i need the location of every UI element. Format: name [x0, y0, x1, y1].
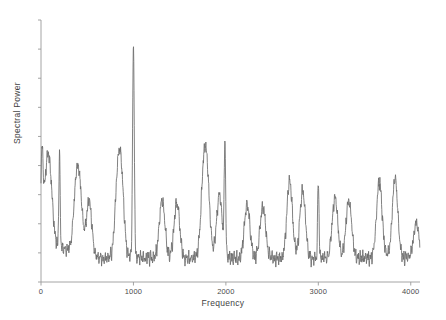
spectrum-line: [41, 47, 420, 267]
x-axis-title: Frequency: [0, 298, 446, 308]
x-tick-label: 3000: [310, 287, 328, 296]
x-tick-label: 4000: [402, 287, 420, 296]
x-tick-label: 0: [39, 287, 43, 296]
x-tick-label: 1000: [125, 287, 143, 296]
y-axis-title: Spectral Power: [12, 58, 22, 168]
plot-area: [0, 0, 446, 320]
spectral-power-chart: 01000200030004000 Frequency Spectral Pow…: [0, 0, 446, 320]
x-axis-ticks: [41, 282, 411, 286]
x-tick-label: 2000: [217, 287, 235, 296]
